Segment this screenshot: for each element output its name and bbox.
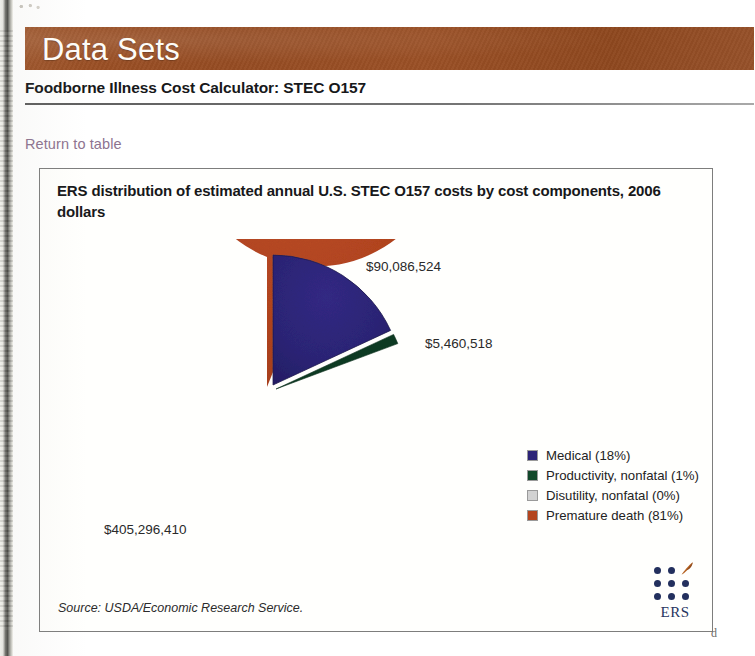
legend-label-premature-death: Premature death (81%) [546,508,683,523]
legend-item-productivity-nonfatal: Productivity, nonfatal (1%) [527,466,699,485]
ers-logo: ERS [652,567,702,623]
logo-dot [654,567,661,574]
logo-dot [654,593,661,600]
return-to-table-link[interactable]: Return to table [25,136,122,152]
legend-label-productivity-nonfatal: Productivity, nonfatal (1%) [546,468,699,483]
chart-panel: ERS distribution of estimated annual U.S… [39,168,713,632]
scan-edge-mark: d [711,626,717,641]
legend-swatch-medical [527,450,538,461]
legend-item-disutility-nonfatal: Disutility, nonfatal (0%) [527,486,699,505]
pie-label-medical: $90,086,524 [366,259,441,274]
logo-dot [682,580,689,587]
pie-chart-svg [122,239,412,529]
document-page: Data Sets Foodborne Illness Cost Calcula… [13,0,755,656]
legend-item-premature-death: Premature death (81%) [527,506,699,525]
logo-dot [668,567,675,574]
legend-label-disutility-nonfatal: Disutility, nonfatal (0%) [546,488,680,503]
logo-dot [668,593,675,600]
logo-dot [682,593,689,600]
wheat-leaf-icon [682,567,689,574]
data-sets-banner: Data Sets [25,27,754,70]
source-note: Source: USDA/Economic Research Service. [58,601,303,615]
legend-label-medical: Medical (18%) [546,448,630,463]
legend-swatch-premature-death [527,510,538,521]
page-subheading: Foodborne Illness Cost Calculator: STEC … [25,79,725,97]
logo-dot [668,580,675,587]
pie-label-premature-death: $405,296,410 [104,522,187,537]
chart-legend: Medical (18%) Productivity, nonfatal (1%… [527,446,699,526]
legend-swatch-productivity-nonfatal [527,470,538,481]
legend-swatch-disutility-nonfatal [527,490,538,501]
pie-chart: $90,086,524 $5,460,518 $405,296,410 [40,169,714,633]
logo-dot [654,580,661,587]
scan-edge-artifact [0,0,13,656]
ers-dot-grid-icon [654,567,698,606]
legend-item-medical: Medical (18%) [527,446,699,465]
subheading-divider [25,103,754,105]
banner-title: Data Sets [42,30,180,70]
ers-logo-text: ERS [652,604,698,621]
pie-label-productivity: $5,460,518 [425,336,493,351]
